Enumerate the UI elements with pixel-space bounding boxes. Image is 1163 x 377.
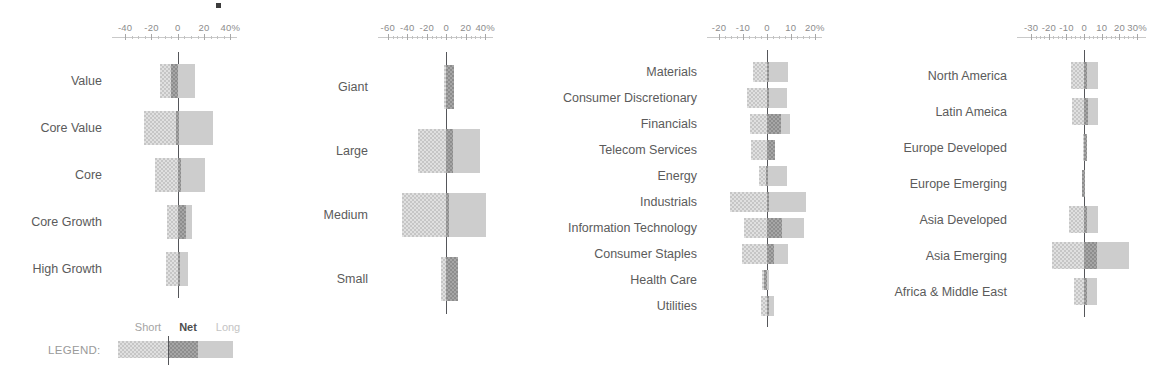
- axis-tick-label: 20: [1114, 22, 1125, 33]
- bar-segment-net: [1084, 206, 1087, 233]
- axis-tick-label: 40%: [221, 22, 241, 33]
- bar-group: [707, 88, 822, 108]
- axis-minor-tick: [184, 36, 185, 39]
- chart-row: Medium: [378, 190, 493, 240]
- chart-row: Core: [112, 156, 237, 194]
- chart-row: Utilities: [707, 294, 822, 317]
- axis-minor-tick: [393, 36, 394, 39]
- bar-segment-net: [767, 296, 770, 316]
- axis-minor-tick: [1128, 36, 1129, 39]
- category-label: Europe Developed: [903, 141, 1017, 155]
- axis-minor-tick: [1071, 36, 1072, 39]
- axis-tick-label: 10: [785, 22, 796, 33]
- axis-tick-label: 30%: [1127, 22, 1147, 33]
- bar-group: [707, 140, 822, 160]
- bar-group: [707, 192, 822, 212]
- axis-size: -60-40-2002040%: [378, 22, 493, 48]
- category-label: Health Care: [630, 273, 707, 287]
- chart-row: Industrials: [707, 190, 822, 213]
- axis-minor-tick: [737, 36, 738, 39]
- bar-segment-net: [1084, 242, 1096, 269]
- chart-panel-region: -30-20-100102030% North AmericaLatin Ame…: [832, 0, 1163, 377]
- axis-tick-label: -20: [1042, 22, 1056, 33]
- axis-minor-tick: [402, 36, 403, 39]
- axis-minor-tick: [412, 36, 413, 39]
- bar-group: [707, 244, 822, 264]
- bar-segment-net: [446, 129, 453, 173]
- axis-minor-tick: [191, 36, 192, 39]
- bar-group: [378, 129, 493, 173]
- chart-row: Telecom Services: [707, 138, 822, 161]
- axis-minor-tick: [217, 36, 218, 39]
- axis-tick-label: -10: [736, 22, 750, 33]
- axis-tick-label: -10: [1059, 22, 1073, 33]
- category-label: Giant: [338, 80, 378, 94]
- bar-segment-net: [1084, 98, 1088, 125]
- bar-group: [1017, 278, 1146, 305]
- axis-tick: [767, 34, 768, 40]
- axis-tick-label: -30: [1024, 22, 1038, 33]
- axis-minor-tick: [761, 36, 762, 39]
- plot-region: North AmericaLatin AmeicaEurope Develope…: [1017, 60, 1146, 307]
- category-label: Large: [336, 144, 378, 158]
- axis-tick-label: -20: [144, 22, 158, 33]
- axis-tick: [151, 34, 152, 40]
- bar-segment-long: [767, 270, 769, 290]
- axis-minor-tick: [441, 36, 442, 39]
- chart-row: Consumer Staples: [707, 242, 822, 265]
- legend-key-short: Short: [135, 321, 161, 333]
- chart-row: Consumer Discretionary: [707, 86, 822, 109]
- axis-minor-tick: [436, 36, 437, 39]
- bar-segment-net: [767, 244, 774, 264]
- bar-group: [1017, 98, 1146, 125]
- bar-segment-long: [446, 193, 486, 237]
- axis-region: -30-20-100102030%: [1017, 22, 1146, 48]
- bar-group: [378, 193, 493, 237]
- axis-tick: [1066, 34, 1067, 40]
- chart-row: Latin Ameica: [1017, 96, 1146, 127]
- axis-minor-tick: [731, 36, 732, 39]
- category-label: Core: [75, 168, 112, 182]
- category-label: Energy: [657, 169, 707, 183]
- axis-minor-tick: [803, 36, 804, 39]
- bar-segment-long: [767, 62, 789, 82]
- axis-minor-tick: [165, 36, 166, 39]
- bar-segment-short: [402, 193, 446, 237]
- plot-size: GiantLargeMediumSmall: [378, 62, 493, 304]
- axis-minor-tick: [1124, 36, 1125, 39]
- chart-panel-sector: -20-1001020% MaterialsConsumer Discretio…: [502, 0, 832, 377]
- bar-segment-net: [446, 193, 449, 237]
- bar-segment-long: [767, 88, 787, 108]
- axis-tick-label: 40%: [475, 22, 495, 33]
- bar-segment-short: [167, 205, 178, 239]
- bar-segment-short: [751, 140, 767, 160]
- bar-segment-short: [418, 129, 446, 173]
- bar-segment-short: [742, 244, 767, 264]
- chart-row: Small: [378, 254, 493, 304]
- axis-minor-tick: [397, 36, 398, 39]
- legend-swatch-short: [118, 341, 168, 358]
- bar-segment-short: [750, 114, 767, 134]
- axis-minor-tick: [211, 36, 212, 39]
- bar-segment-net: [1084, 62, 1087, 89]
- axis-minor-tick: [809, 36, 810, 39]
- axis-minor-tick: [480, 36, 481, 39]
- axis-tick-label: 20%: [805, 22, 825, 33]
- axis-minor-tick: [456, 36, 457, 39]
- axis-tick: [1137, 34, 1138, 40]
- axis-tick-label: -40: [118, 22, 132, 33]
- axis-minor-tick: [1080, 36, 1081, 39]
- axis-minor-tick: [145, 36, 146, 39]
- chart-row: Large: [378, 126, 493, 176]
- category-label: North America: [928, 69, 1017, 83]
- axis-tick-label: 0: [443, 22, 448, 33]
- axis-tick: [388, 34, 389, 40]
- axis-minor-tick: [1053, 36, 1054, 39]
- bar-segment-net: [764, 270, 767, 290]
- axis-minor-tick: [773, 36, 774, 39]
- legend-title: LEGEND:: [48, 344, 101, 356]
- axis-minor-tick: [725, 36, 726, 39]
- bar-segment-net: [178, 252, 181, 286]
- category-label: Value: [71, 74, 112, 88]
- bar-segment-short: [144, 111, 178, 145]
